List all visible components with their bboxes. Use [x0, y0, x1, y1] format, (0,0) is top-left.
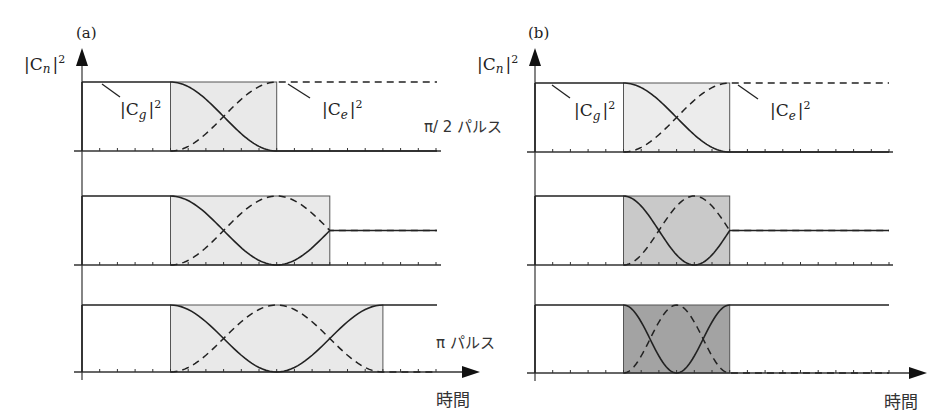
x-axis-arrow-icon — [909, 367, 927, 379]
panel-a — [74, 48, 480, 380]
leader-line — [738, 85, 758, 99]
panel-b-label: (b) — [528, 24, 549, 42]
panel-a-label: (a) — [76, 24, 97, 42]
plot-row-2 — [74, 196, 441, 265]
leader-line — [288, 84, 310, 98]
leader-line — [552, 85, 570, 98]
pulse-region — [171, 305, 383, 372]
pulse-region — [624, 305, 730, 373]
svg-text:|Ce|2: |Ce|2 — [770, 99, 811, 123]
svg-text:|Cg|2: |Cg|2 — [574, 99, 615, 123]
time-axis-label-b: 時間 — [884, 392, 918, 412]
plot-row-3 — [74, 305, 480, 378]
y-axis-arrow-icon — [76, 48, 88, 66]
pi-pulse-label: π パルス — [436, 334, 495, 352]
plot-row-2 — [527, 196, 893, 265]
plot-row-3 — [527, 305, 927, 379]
leader-line — [102, 84, 120, 97]
cg-annotation-a: |Cg|2 — [102, 84, 161, 122]
half-pi-pulse-label: π/ 2 パルス — [424, 118, 502, 136]
panel-b — [527, 48, 927, 381]
svg-text:|Cn|2: |Cn|2 — [477, 53, 518, 76]
y-axis-title-b: |Cn|2 — [477, 53, 518, 76]
svg-text:|Cn|2: |Cn|2 — [24, 53, 65, 76]
svg-text:|Cg|2: |Cg|2 — [120, 98, 161, 122]
ce-annotation-a: |Ce|2 — [288, 84, 363, 122]
time-axis-label-a: 時間 — [436, 390, 470, 410]
y-axis-title-a: |Cn|2 — [24, 53, 65, 76]
svg-text:|Ce|2: |Ce|2 — [322, 98, 363, 122]
x-axis-arrow-icon — [462, 366, 480, 378]
cg-annotation-b: |Cg|2 — [552, 85, 615, 123]
y-axis-arrow-icon — [529, 48, 541, 66]
ce-annotation-b: |Ce|2 — [738, 85, 811, 123]
rabi-figure: (a) (b) |Cn|2 |Cn|2 |Cg|2 |Ce|2 π/ 2 パルス… — [0, 0, 941, 417]
